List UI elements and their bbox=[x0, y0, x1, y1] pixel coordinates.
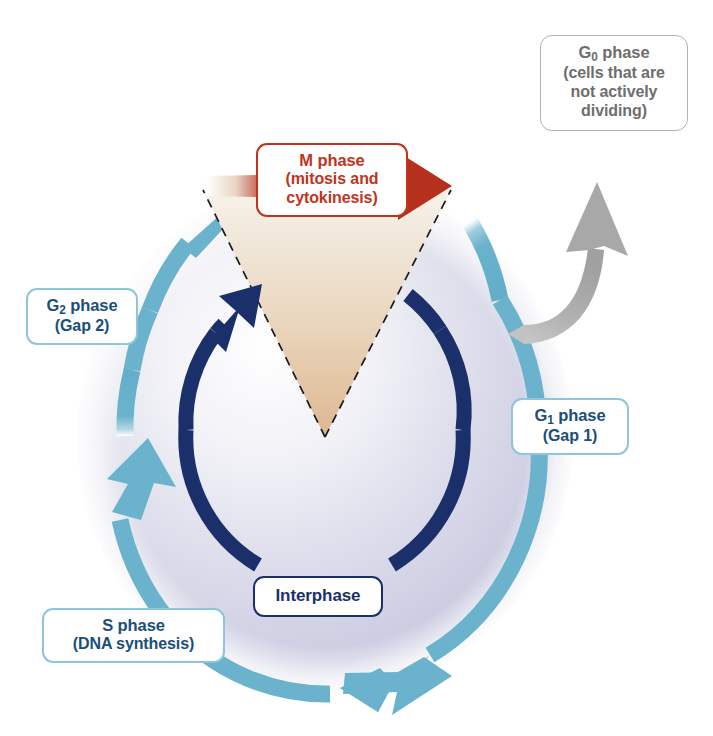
g0-phase-label[interactable]: G0 phase (cells that are not actively di… bbox=[540, 35, 688, 131]
g0-title-subscript: 0 bbox=[591, 50, 598, 64]
g1-title-subscript: 1 bbox=[547, 413, 554, 427]
g2-title-prefix: G bbox=[46, 296, 59, 314]
g1-phase-title: G1 phase bbox=[519, 406, 621, 427]
s-phase-subtitle: (DNA synthesis) bbox=[50, 635, 217, 654]
cell-cycle-figure: M phase (mitosis and cytokinesis) G0 pha… bbox=[0, 0, 713, 736]
s-phase-label[interactable]: S phase (DNA synthesis) bbox=[42, 608, 225, 663]
m-phase-subtitle-2: cytokinesis) bbox=[266, 189, 398, 208]
m-phase-label[interactable]: M phase (mitosis and cytokinesis) bbox=[256, 143, 408, 217]
g2-phase-subtitle: (Gap 2) bbox=[34, 317, 130, 336]
g2-phase-title: G2 phase bbox=[34, 296, 130, 317]
g2-title-subscript: 2 bbox=[59, 303, 66, 317]
g0-phase-subtitle-1: (cells that are bbox=[549, 64, 679, 83]
g0-arrowhead bbox=[566, 182, 628, 256]
g1-title-suffix: phase bbox=[554, 406, 606, 424]
g0-phase-subtitle-3: dividing) bbox=[549, 102, 679, 121]
g0-title-prefix: G bbox=[578, 43, 591, 61]
g1-phase-subtitle: (Gap 1) bbox=[519, 427, 621, 446]
g0-phase-subtitle-2: not actively bbox=[549, 83, 679, 102]
s-phase-title: S phase bbox=[50, 616, 217, 635]
g1-phase-label[interactable]: G1 phase (Gap 1) bbox=[511, 398, 629, 455]
g1-title-prefix: G bbox=[534, 406, 547, 424]
g0-title-suffix: phase bbox=[598, 43, 650, 61]
interphase-title: Interphase bbox=[261, 586, 375, 606]
m-phase-subtitle-1: (mitosis and bbox=[266, 170, 398, 189]
figure-top-caption bbox=[44, 0, 474, 8]
m-phase-title: M phase bbox=[266, 151, 398, 170]
g2-title-suffix: phase bbox=[66, 296, 118, 314]
g2-phase-label[interactable]: G2 phase (Gap 2) bbox=[26, 288, 138, 345]
g0-phase-title: G0 phase bbox=[549, 43, 679, 64]
interphase-label[interactable]: Interphase bbox=[253, 576, 383, 617]
